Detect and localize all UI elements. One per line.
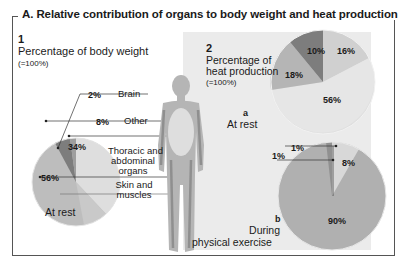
heat-exercise-skin-value: 90% <box>328 215 346 227</box>
other-weight-value: 8% <box>96 116 109 128</box>
section-2-sub: (=100%) <box>206 77 236 89</box>
heat-rest-brain-value: 16% <box>337 45 355 57</box>
heat-rest-thoracic-value: 56% <box>323 94 341 106</box>
heat-exercise-pie <box>278 142 386 250</box>
other-label: Other <box>124 116 148 126</box>
heat-exercise-other-value: 1% <box>272 150 285 162</box>
section-1-sub: (=100%) <box>18 58 48 70</box>
heat-rest-caption: At rest <box>227 118 257 130</box>
thoracic-label: Thoracic and abdominal organs <box>108 146 158 176</box>
brain-label: Brain <box>118 89 140 99</box>
skin-weight-value: 56% <box>41 172 59 184</box>
thoracic-weight-value: 34% <box>68 141 86 153</box>
section-2-heading-2: heat production <box>206 65 278 77</box>
section-1-heading: Percentage of body weight <box>18 45 148 57</box>
heat-rest-other-value: 10% <box>307 45 325 57</box>
heat-exercise-brain-value: 1% <box>291 142 304 154</box>
section-1-number: 1 <box>18 33 24 45</box>
pie-1-caption: At rest <box>45 206 75 218</box>
skin-label: Skin and muscles <box>112 180 156 200</box>
human-body-figure <box>158 75 204 252</box>
section-2-number: 2 <box>206 42 212 54</box>
heat-exercise-caption-1: During <box>244 224 280 236</box>
heat-exercise-caption-2: physical exercise <box>192 236 272 248</box>
brain-weight-value: 2% <box>88 89 101 101</box>
heat-exercise-thoracic-value: 8% <box>342 157 355 169</box>
heat-rest-skin-value: 18% <box>285 69 303 81</box>
